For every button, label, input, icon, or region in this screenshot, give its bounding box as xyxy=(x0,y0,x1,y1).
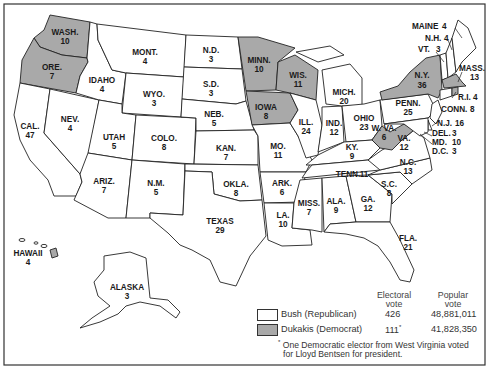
svg-text:8: 8 xyxy=(234,189,239,198)
footnote-asterisk: * xyxy=(278,339,280,345)
svg-text:WIS.: WIS. xyxy=(289,71,307,80)
svg-text:UTAH: UTAH xyxy=(103,133,125,142)
svg-text:8: 8 xyxy=(264,112,269,121)
svg-text:7: 7 xyxy=(50,72,55,81)
state-fl xyxy=(324,222,414,282)
svg-text:KAN.: KAN. xyxy=(216,144,236,153)
svg-text:S.C.: S.C. xyxy=(381,180,397,189)
svg-text:S.D.: S.D. xyxy=(203,80,219,89)
svg-text:21: 21 xyxy=(403,243,413,252)
legend-footnote-line2: for Lloyd Bentsen for president. xyxy=(278,350,469,360)
svg-text:ORE.: ORE. xyxy=(42,63,62,72)
legend-dukakis-label: Dukakis (Democrat) xyxy=(281,324,362,334)
svg-text:13: 13 xyxy=(403,167,413,176)
svg-text:OKLA.: OKLA. xyxy=(223,180,248,189)
legend-bush-popular: 48,881,011 xyxy=(431,309,476,319)
svg-text:IOWA: IOWA xyxy=(255,103,277,112)
svg-text:FLA.: FLA. xyxy=(399,234,417,243)
svg-text:N.Y.: N.Y. xyxy=(414,71,429,80)
svg-text:ARIZ.: ARIZ. xyxy=(93,177,114,186)
legend-header-electoral: Electoral vote xyxy=(364,291,424,309)
svg-text:12: 12 xyxy=(329,128,339,137)
svg-text:4: 4 xyxy=(442,22,447,31)
svg-text:LA.: LA. xyxy=(276,211,289,220)
legend-bush-label: Bush (Republican) xyxy=(281,309,357,319)
svg-text:16: 16 xyxy=(455,119,465,128)
svg-text:NEV.: NEV. xyxy=(61,115,79,124)
svg-text:36: 36 xyxy=(417,81,427,90)
legend-dukakis-popular: 41,828,350 xyxy=(431,324,477,334)
svg-text:13: 13 xyxy=(470,73,480,82)
svg-text:NEB.: NEB. xyxy=(204,110,224,119)
svg-text:ILL.: ILL. xyxy=(299,118,314,127)
svg-text:8: 8 xyxy=(387,189,392,198)
svg-text:4: 4 xyxy=(26,258,31,267)
svg-text:ALASKA: ALASKA xyxy=(110,283,144,292)
svg-text:CAL.: CAL. xyxy=(20,122,39,131)
svg-text:3: 3 xyxy=(125,292,130,301)
svg-text:IDAHO: IDAHO xyxy=(89,76,116,85)
svg-text:MINN.: MINN. xyxy=(247,56,270,65)
svg-text:6: 6 xyxy=(382,133,387,142)
svg-text:MASS.: MASS. xyxy=(459,64,485,73)
us-map: WASH.10 ORE.7 CAL.47 IDAHO4 NEV.4 MONT.4… xyxy=(0,0,489,370)
svg-text:25: 25 xyxy=(403,108,413,117)
svg-text:MISS.: MISS. xyxy=(298,199,320,208)
svg-text:3: 3 xyxy=(152,99,157,108)
svg-text:CONN.: CONN. xyxy=(441,105,467,114)
svg-text:9: 9 xyxy=(334,206,339,215)
svg-text:PENN.: PENN. xyxy=(395,99,420,108)
footnote-marker: * xyxy=(399,324,401,330)
legend-bush-electoral: 426 xyxy=(385,309,400,319)
svg-text:OHIO: OHIO xyxy=(354,114,376,123)
svg-text:4: 4 xyxy=(68,124,73,133)
svg-text:TEXAS: TEXAS xyxy=(206,217,234,226)
svg-text:ALA.: ALA. xyxy=(326,197,345,206)
svg-text:11: 11 xyxy=(274,151,283,160)
svg-text:KY.: KY. xyxy=(346,143,359,152)
svg-text:3: 3 xyxy=(436,45,441,54)
svg-text:D.C.: D.C. xyxy=(432,147,448,156)
svg-text:COLO.: COLO. xyxy=(151,134,177,143)
svg-text:DEL.: DEL. xyxy=(432,129,451,138)
svg-text:3: 3 xyxy=(209,89,214,98)
svg-text:9: 9 xyxy=(350,152,355,161)
svg-text:10: 10 xyxy=(254,65,264,74)
svg-text:MO.: MO. xyxy=(270,142,285,151)
legend-header-popular-line2: vote xyxy=(423,300,483,309)
svg-text:MD.: MD. xyxy=(432,138,447,147)
svg-text:MAINE: MAINE xyxy=(412,22,439,31)
svg-text:10: 10 xyxy=(278,220,288,229)
svg-text:R.I.: R.I. xyxy=(458,93,471,102)
svg-text:8: 8 xyxy=(470,105,475,114)
svg-text:WYO.: WYO. xyxy=(143,90,165,99)
svg-text:20: 20 xyxy=(339,97,349,106)
svg-text:24: 24 xyxy=(301,127,311,136)
svg-text:7: 7 xyxy=(102,186,107,195)
svg-text:7: 7 xyxy=(224,153,229,162)
legend-header-popular: Popular vote xyxy=(423,291,483,309)
svg-text:ARK.: ARK. xyxy=(272,179,292,188)
svg-text:3: 3 xyxy=(452,129,457,138)
svg-text:N.J.: N.J. xyxy=(437,119,452,128)
svg-text:MONT.: MONT. xyxy=(132,48,157,57)
svg-text:11: 11 xyxy=(294,80,303,89)
svg-text:N.H.: N.H. xyxy=(425,34,441,43)
svg-text:3: 3 xyxy=(209,55,214,64)
svg-text:4: 4 xyxy=(473,93,478,102)
legend-swatch-republican xyxy=(257,309,278,321)
state-ny xyxy=(380,55,442,100)
svg-text:5: 5 xyxy=(212,119,217,128)
election-map-figure: WASH.10 ORE.7 CAL.47 IDAHO4 NEV.4 MONT.4… xyxy=(0,0,489,370)
svg-text:12: 12 xyxy=(399,143,409,152)
svg-text:10: 10 xyxy=(60,37,70,46)
svg-text:23: 23 xyxy=(359,123,369,132)
svg-text:N.M.: N.M. xyxy=(147,179,164,188)
svg-text:N.C.: N.C. xyxy=(400,158,416,167)
svg-text:W. VA.: W. VA. xyxy=(372,124,397,133)
legend-header-electoral-line2: vote xyxy=(364,300,424,309)
svg-text:12: 12 xyxy=(363,204,373,213)
svg-text:4: 4 xyxy=(100,85,105,94)
svg-text:5: 5 xyxy=(112,142,117,151)
footnote-text-1: One Democratic elector from West Virgini… xyxy=(283,340,469,350)
